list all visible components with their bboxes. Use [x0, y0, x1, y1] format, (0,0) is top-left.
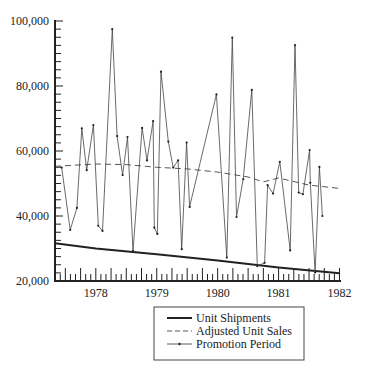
data-point-marker — [122, 174, 124, 176]
data-point-marker — [231, 36, 233, 38]
x-tick-label: 1981 — [267, 286, 291, 300]
data-point-marker — [309, 149, 311, 151]
y-tick-label: 60,000 — [16, 144, 49, 158]
line-chart: 20,00040,00060,00080,000100,000 19781979… — [0, 0, 365, 365]
data-point-marker — [132, 250, 134, 252]
data-point-marker — [294, 44, 296, 46]
data-point-marker — [309, 182, 311, 184]
legend-marker-promotion-period — [178, 343, 180, 345]
data-point-marker — [97, 225, 99, 227]
legend: Unit Shipments Adjusted Unit Sales Promo… — [154, 307, 304, 360]
plot-area — [55, 28, 340, 274]
series-unit-shipments — [55, 243, 340, 273]
data-point-marker — [272, 192, 274, 194]
data-point-marker — [298, 192, 300, 194]
data-point-marker — [116, 135, 118, 137]
data-point-marker — [69, 229, 71, 231]
data-point-marker — [152, 120, 154, 122]
data-point-marker — [235, 216, 237, 218]
data-point-marker — [141, 127, 143, 129]
data-point-marker — [81, 127, 83, 129]
data-point-marker — [111, 28, 113, 30]
data-point-marker — [172, 166, 174, 168]
data-point-marker — [153, 227, 155, 229]
data-point-marker — [101, 230, 103, 232]
legend-label-promotion-period: Promotion Period — [196, 337, 281, 351]
data-point-marker — [177, 159, 179, 161]
data-point-marker — [185, 141, 187, 143]
data-point-marker — [156, 233, 158, 235]
data-point-marker — [189, 206, 191, 208]
data-point-marker — [167, 140, 169, 142]
data-point-marker — [251, 89, 253, 91]
x-tick-label: 1982 — [328, 286, 352, 300]
data-point-marker — [242, 178, 244, 180]
data-point-marker — [61, 166, 63, 168]
data-point-marker — [126, 136, 128, 138]
data-point-marker — [215, 93, 217, 95]
data-point-marker — [86, 169, 88, 171]
data-point-marker — [279, 161, 281, 163]
data-point-marker — [267, 184, 269, 186]
data-point-marker — [256, 265, 258, 267]
data-point-marker — [314, 271, 316, 273]
legend-label-unit-shipments: Unit Shipments — [196, 311, 271, 325]
y-tick-label: 100,000 — [10, 14, 49, 28]
data-point-marker — [226, 257, 228, 259]
series-promotion-period — [62, 29, 323, 273]
y-tick-label: 40,000 — [16, 209, 49, 223]
legend-label-adjusted-unit-sales: Adjusted Unit Sales — [196, 324, 292, 338]
data-point-marker — [318, 166, 320, 168]
data-point-marker — [146, 159, 148, 161]
data-point-marker — [76, 207, 78, 209]
data-point-marker — [321, 215, 323, 217]
x-tick-label: 1979 — [145, 286, 169, 300]
x-tick-label: 1980 — [206, 286, 230, 300]
data-point-marker — [289, 249, 291, 251]
data-point-marker — [160, 71, 162, 73]
data-point-marker — [263, 262, 265, 264]
x-tick-label: 1978 — [84, 286, 108, 300]
y-tick-label: 20,000 — [16, 274, 49, 288]
data-point-marker — [92, 124, 94, 126]
y-tick-label: 80,000 — [16, 79, 49, 93]
data-point-marker — [181, 248, 183, 250]
x-axis-ticks: 19781979198019811982 — [60, 268, 351, 300]
data-point-marker — [302, 193, 304, 195]
